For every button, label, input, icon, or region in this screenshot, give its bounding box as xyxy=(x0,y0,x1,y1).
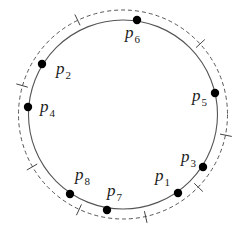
point-label-p6: p6 xyxy=(124,23,141,45)
point-dot-p8 xyxy=(66,190,74,198)
point-dot-p3 xyxy=(199,163,207,171)
point-dot-p6 xyxy=(133,16,141,24)
point-subscript-p8: 8 xyxy=(85,175,91,187)
point-dot-p5 xyxy=(211,89,219,97)
point-subscript-p2: 2 xyxy=(66,69,72,81)
point-subscript-p1: 1 xyxy=(165,176,171,188)
point-label-p1: p1 xyxy=(154,166,170,188)
tick-mark xyxy=(75,14,80,25)
inner-solid-circle xyxy=(29,20,218,209)
point-label-p5: p5 xyxy=(191,86,208,108)
point-label-p3: p3 xyxy=(180,147,197,169)
tick-mark xyxy=(16,84,28,87)
point-label-p7: p7 xyxy=(106,181,123,203)
labels-group: p1p2p3p4p5p6p7p8 xyxy=(39,23,208,203)
point-label-p8: p8 xyxy=(74,165,91,187)
point-subscript-p3: 3 xyxy=(191,157,197,169)
point-dot-p2 xyxy=(38,60,46,68)
point-subscript-p5: 5 xyxy=(202,96,208,108)
tick-mark xyxy=(220,134,232,136)
point-dot-p4 xyxy=(24,103,32,111)
point-label-p4: p4 xyxy=(39,97,56,119)
tick-mark xyxy=(76,204,81,215)
point-subscript-p6: 6 xyxy=(135,33,141,45)
point-subscript-p4: 4 xyxy=(50,107,56,119)
point-dot-p7 xyxy=(103,206,111,214)
point-subscript-p7: 7 xyxy=(117,191,123,203)
point-label-p2: p2 xyxy=(55,59,71,81)
point-dot-p1 xyxy=(174,189,182,197)
circle-points-diagram: p1p2p3p4p5p6p7p8 xyxy=(0,0,243,232)
tick-mark xyxy=(27,164,37,170)
